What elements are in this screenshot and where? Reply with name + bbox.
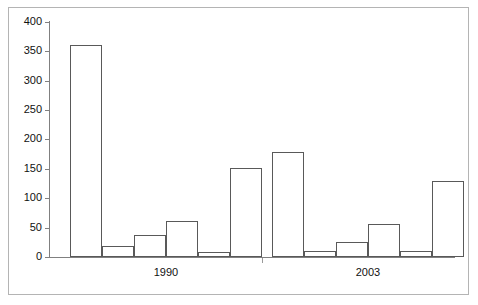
- bar-1990-4: [166, 221, 198, 257]
- bar-1990-6: [230, 168, 262, 257]
- bar-1990-5: [198, 252, 230, 257]
- y-tick-label-50-wrap: 50: [0, 222, 42, 233]
- bar-2003-5: [400, 251, 432, 257]
- y-tick-250: [45, 110, 50, 111]
- y-tick-400: [45, 22, 50, 23]
- bar-2003-4: [368, 224, 400, 257]
- y-tick-label-200: 200: [2, 133, 42, 144]
- y-tick-label-0: 0: [2, 251, 42, 262]
- y-tick-label-250-wrap: 250: [0, 104, 42, 115]
- y-tick-50: [45, 228, 50, 229]
- y-tick-label-150: 150: [2, 163, 42, 174]
- y-tick-100: [45, 198, 50, 199]
- bar-2003-6: [432, 181, 464, 257]
- y-tick-label-150-wrap: 150: [0, 163, 42, 174]
- y-tick-label-400-wrap: 400: [0, 16, 42, 27]
- bar-1990-2: [102, 246, 134, 257]
- y-tick-label-200-wrap: 200: [0, 133, 42, 144]
- bar-2003-3: [336, 242, 368, 257]
- y-tick-label-350-wrap: 350: [0, 45, 42, 56]
- y-tick-150: [45, 169, 50, 170]
- y-tick-300: [45, 81, 50, 82]
- x-axis-label-2003: 2003: [328, 266, 408, 278]
- x-axis-label-1990: 1990: [126, 266, 206, 278]
- plot-area: 400 350 300 250 200 150 100 50: [0, 0, 478, 305]
- y-tick-label-100: 100: [2, 192, 42, 203]
- y-tick-350: [45, 51, 50, 52]
- y-tick-label-300: 300: [2, 75, 42, 86]
- y-tick-0: [45, 257, 50, 258]
- y-tick-label-0-wrap: 0: [0, 251, 42, 262]
- y-tick-label-100-wrap: 100: [0, 192, 42, 203]
- bar-2003-1: [272, 152, 304, 257]
- bar-1990-1: [70, 45, 102, 257]
- group-separator-tick: [262, 258, 263, 263]
- x-axis-line: [49, 257, 455, 258]
- y-tick-label-300-wrap: 300: [0, 75, 42, 86]
- bar-2003-2: [304, 251, 336, 257]
- y-tick-label-400: 400: [2, 16, 42, 27]
- y-tick-200: [45, 139, 50, 140]
- y-tick-label-50: 50: [2, 222, 42, 233]
- y-tick-label-350: 350: [2, 45, 42, 56]
- y-tick-label-250: 250: [2, 104, 42, 115]
- bar-1990-3: [134, 235, 166, 257]
- chart-figure: 400 350 300 250 200 150 100 50: [0, 0, 478, 305]
